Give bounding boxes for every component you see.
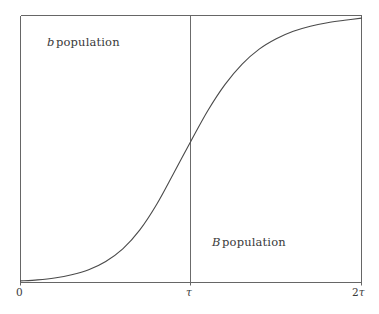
axis-tick-label-two-tau: 2τ [352, 286, 365, 298]
axis-tick-label-origin: 0 [16, 286, 23, 298]
tick-symbol-2tau: τ [359, 286, 365, 298]
axis-tick-label-tau: τ [186, 286, 192, 298]
tick-text-0: 0 [16, 286, 23, 298]
symbol-capital-b: B [212, 235, 222, 249]
label-b-population-text: population [56, 35, 120, 49]
tick-symbol-tau: τ [186, 286, 192, 298]
symbol-b: b [47, 35, 56, 49]
tick-text-2: 2 [352, 286, 359, 298]
label-b-population: bpopulation [47, 35, 120, 49]
figure-container: bpopulation Bpopulation 0 τ 2τ [0, 0, 379, 314]
label-capital-b-population-text: population [222, 235, 286, 249]
label-capital-b-population: Bpopulation [212, 235, 286, 249]
